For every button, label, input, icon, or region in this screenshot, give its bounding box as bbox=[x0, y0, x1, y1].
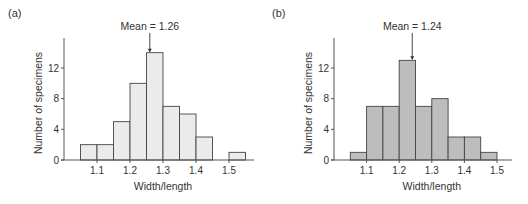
x-tick-label: 1.2 bbox=[392, 165, 406, 176]
histogram-bar bbox=[481, 152, 497, 160]
histogram-bar bbox=[416, 106, 432, 160]
histogram-bar bbox=[399, 60, 415, 160]
x-tick-label: 1.1 bbox=[90, 165, 104, 176]
y-axis-label: Number of specimens bbox=[32, 52, 44, 154]
mean-annotation: Mean = 1.24 bbox=[383, 20, 442, 32]
x-tick-label: 1.5 bbox=[490, 165, 504, 176]
histogram-bar bbox=[350, 152, 366, 160]
panel-b: (b)048121.11.21.31.41.5Width/lengthNumbe… bbox=[272, 7, 512, 192]
mean-arrow-head-icon bbox=[410, 56, 414, 60]
x-axis-label: Width/length bbox=[403, 180, 462, 192]
histogram-bar bbox=[432, 99, 448, 160]
x-tick-label: 1.2 bbox=[123, 165, 137, 176]
histogram-bar bbox=[196, 137, 213, 160]
mean-annotation: Mean = 1.26 bbox=[120, 20, 179, 32]
histogram-bar bbox=[464, 137, 480, 160]
y-tick-label: 0 bbox=[53, 155, 59, 166]
panel-a: (a)048121.11.21.31.41.5Width/lengthNumbe… bbox=[8, 7, 254, 192]
x-tick-label: 1.3 bbox=[425, 165, 439, 176]
histogram-bar bbox=[367, 106, 383, 160]
x-axis-label: Width/length bbox=[134, 180, 193, 192]
y-tick-label: 12 bbox=[48, 63, 60, 74]
y-axis-label: Number of specimens bbox=[302, 52, 314, 154]
panel-label: (b) bbox=[272, 7, 285, 19]
histogram-bar bbox=[130, 83, 147, 160]
histogram-bar bbox=[97, 145, 114, 160]
y-tick-label: 0 bbox=[323, 155, 329, 166]
histogram-bar bbox=[163, 106, 180, 160]
x-tick-label: 1.3 bbox=[156, 165, 170, 176]
x-tick-label: 1.4 bbox=[189, 165, 203, 176]
histogram-bar bbox=[229, 152, 246, 160]
histogram-bar bbox=[383, 106, 399, 160]
x-tick-label: 1.5 bbox=[222, 165, 236, 176]
histogram-bar bbox=[81, 145, 98, 160]
x-tick-label: 1.1 bbox=[360, 165, 374, 176]
histogram-figure: (a)048121.11.21.31.41.5Width/lengthNumbe… bbox=[0, 0, 528, 204]
histogram-bar bbox=[180, 114, 197, 160]
y-tick-label: 4 bbox=[323, 124, 329, 135]
y-tick-label: 4 bbox=[53, 124, 59, 135]
panel-label: (a) bbox=[8, 7, 21, 19]
x-tick-label: 1.4 bbox=[457, 165, 471, 176]
histogram-bar bbox=[114, 122, 131, 160]
y-tick-label: 8 bbox=[323, 93, 329, 104]
mean-arrow-head-icon bbox=[148, 49, 152, 53]
y-tick-label: 8 bbox=[53, 93, 59, 104]
histogram-bar bbox=[448, 137, 464, 160]
histogram-bar bbox=[147, 53, 164, 160]
y-tick-label: 12 bbox=[318, 63, 330, 74]
